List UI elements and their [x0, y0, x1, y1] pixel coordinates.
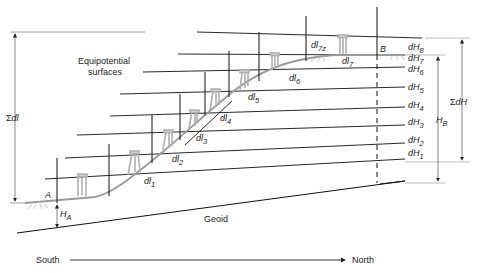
svg-text:dl1: dl1 — [144, 176, 155, 189]
svg-text:dl2: dl2 — [172, 154, 184, 167]
svg-text:dl6: dl6 — [289, 73, 301, 86]
tripod-icon — [240, 70, 249, 90]
surfaces-label: surfaces — [88, 67, 123, 77]
grass-tufts — [28, 55, 404, 209]
dl-labels: dl1 dl2 dl3 dl4 dl5 dl6 dl7 dl7z — [144, 40, 354, 189]
svg-text:dH1: dH1 — [408, 148, 424, 161]
south-label: South — [36, 255, 60, 265]
north-label: North — [352, 255, 374, 265]
tripod-icon — [338, 35, 347, 54]
ha-label: HA — [60, 209, 72, 222]
svg-text:dl7: dl7 — [342, 56, 354, 69]
sum-dh-label: ΣdH — [450, 97, 468, 107]
dl3-segment — [185, 101, 232, 145]
equipotential-label: Equipotential — [78, 56, 130, 66]
tripod-icon — [270, 53, 279, 70]
svg-text:dH5: dH5 — [408, 82, 425, 95]
svg-text:dl5: dl5 — [248, 92, 260, 105]
leveling-diagram: Equipotential surfaces Geoid A B South N… — [0, 0, 478, 273]
point-b-label: B — [380, 44, 386, 54]
geoid-line — [17, 181, 405, 233]
svg-text:dl3: dl3 — [196, 133, 208, 146]
svg-text:dl4: dl4 — [220, 113, 231, 126]
equipotential-surfaces — [45, 32, 422, 179]
svg-text:dH2: dH2 — [408, 135, 425, 148]
svg-text:dH4: dH4 — [408, 100, 424, 113]
point-a-label: A — [44, 190, 51, 200]
svg-text:dl7z: dl7z — [311, 40, 326, 53]
sum-dl-label: Σdl — [6, 113, 20, 123]
dh-labels: dH1 dH2 dH3 dH4 dH5 dH6 dH7 dH8 — [408, 42, 425, 161]
svg-text:dH3: dH3 — [408, 117, 425, 130]
geoid-extension — [380, 181, 405, 184]
geoid-label: Geoid — [204, 214, 228, 224]
level-rods — [57, 16, 306, 203]
